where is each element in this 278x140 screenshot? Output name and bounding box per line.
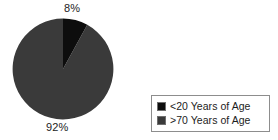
legend-item-under-20: <20 Years of Age [157,100,265,114]
legend-swatch-under-20 [157,102,166,111]
legend-item-over-70: >70 Years of Age [157,114,265,128]
pie-chart-graphic [12,18,114,120]
legend-label-over-70: >70 Years of Age [170,115,251,126]
pie-label-under-20: 8% [64,2,80,14]
pie-label-over-70: 92% [46,121,68,133]
pie-chart-figure: 8% 92% <20 Years of Age >70 Years of Age [0,0,278,140]
legend-label-under-20: <20 Years of Age [170,101,251,112]
legend-swatch-over-70 [157,116,166,125]
chart-legend: <20 Years of Age >70 Years of Age [151,95,270,132]
pie-svg [12,18,114,120]
